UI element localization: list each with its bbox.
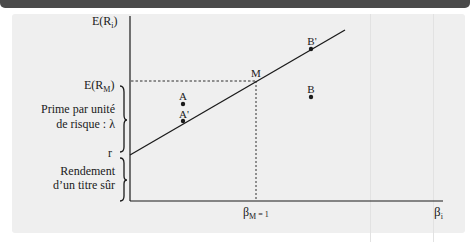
point-b	[309, 95, 313, 99]
point-b-prime	[309, 47, 313, 51]
label-a-prime: A'	[179, 108, 189, 120]
label-a: A	[179, 90, 187, 102]
risk-premium-label-line2: de risque : λ	[56, 117, 115, 131]
risk-free-label-line1: Rendement	[60, 164, 115, 178]
y-axis-label: E(Ri)	[92, 14, 118, 30]
point-a	[181, 102, 185, 106]
sml-diagram: A A' M B' B E(Ri) E(RM) Prime par unité …	[0, 0, 475, 242]
risk-free-rate-label: r	[108, 146, 112, 160]
risk-free-label-line2: d’un titre sûr	[53, 178, 115, 192]
erm-label: E(RM)	[84, 78, 114, 94]
beta-m-label: βM = 1	[243, 205, 269, 221]
x-axis-label: βi	[434, 204, 444, 221]
label-b-prime: B'	[307, 35, 316, 47]
risk-free-brace	[120, 158, 127, 201]
risk-premium-label-line1: Prime par unité	[41, 102, 115, 116]
risk-premium-brace	[120, 86, 127, 152]
label-b: B	[307, 83, 314, 95]
label-m: M	[251, 67, 261, 79]
